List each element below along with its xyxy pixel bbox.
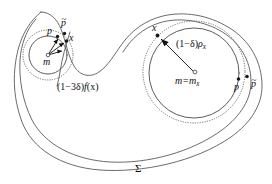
left-radius-annotation: (1−3δ)f(x)	[57, 82, 98, 92]
right-radius-prefix: (1−δ)	[176, 38, 198, 49]
right-label-x-text: x	[152, 22, 156, 33]
right-label-p-bar-glyph: ~ p	[251, 79, 256, 89]
right-center-eq-sub: x	[196, 80, 199, 88]
right-center-annotation: m=mx	[175, 76, 199, 88]
left-label-p-bar: ~ p	[61, 18, 66, 28]
region-label-sigma: Σ	[135, 163, 141, 174]
left-label-x-text: x	[69, 32, 73, 43]
left-label-x: x	[69, 33, 73, 43]
right-radius-rho-sub: x	[203, 43, 206, 51]
left-point-pbar-marker	[63, 32, 66, 35]
left-point-p-marker	[56, 35, 59, 38]
left-label-m: m	[43, 57, 50, 67]
sigma-inner-boundary	[20, 19, 251, 162]
right-label-x: x	[152, 23, 156, 33]
right-point-pbar-marker	[245, 75, 249, 79]
left-label-p-text: p	[47, 25, 52, 36]
right-label-p-text: p	[234, 81, 239, 92]
right-label-p-bar: ~ p	[251, 79, 256, 89]
region-label-sigma-text: Σ	[135, 162, 141, 174]
figure-container: p ~ p x m (1−3δ)f(x) x (1−δ)ρx m=mx p ~ …	[0, 0, 272, 184]
right-label-p: p	[234, 82, 239, 92]
left-point-x-marker	[65, 39, 68, 42]
left-label-m-text: m	[43, 56, 50, 67]
right-point-x-marker	[156, 34, 160, 38]
left-arrow-to-x	[48, 43, 64, 55]
right-point-m-marker	[193, 70, 197, 74]
left-radius-arg: (x)	[87, 81, 99, 92]
left-label-p-bar-glyph: ~ p	[61, 18, 66, 28]
left-p-bar-accent: ~	[62, 15, 67, 24]
left-label-p: p	[47, 26, 52, 36]
right-radius-annotation: (1−δ)ρx	[176, 39, 206, 51]
left-radius-prefix: (1−3δ)	[57, 81, 84, 92]
right-center-eq: m=m	[175, 75, 196, 86]
right-p-bar-accent: ~	[252, 76, 257, 85]
diagram-canvas	[0, 0, 272, 184]
